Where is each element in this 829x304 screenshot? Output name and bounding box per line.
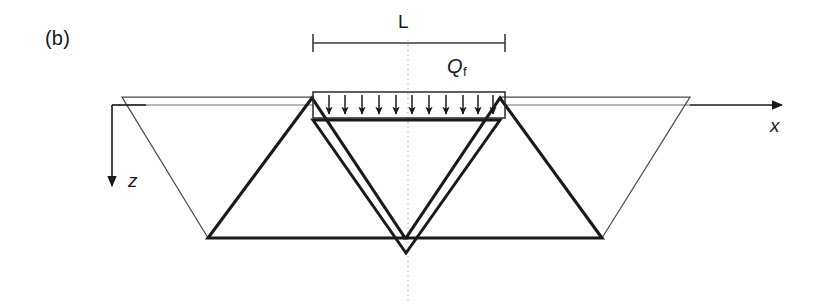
load-arrow-group — [329, 95, 493, 114]
figure-panel-b: (b) L Qf z x — [0, 0, 829, 304]
panel-label: (b) — [45, 28, 70, 48]
block-left-passive-wedge — [122, 97, 312, 238]
block-right-passive-wedge — [500, 97, 690, 238]
footing-load-box — [313, 92, 505, 118]
failure-mechanism-drawing — [0, 0, 829, 304]
dimension-label-L: L — [398, 12, 409, 31]
dimension-line-L — [313, 34, 505, 52]
load-label-subscript: f — [463, 64, 467, 79]
load-label-qf: Qf — [447, 56, 467, 78]
axis-label-z: z — [128, 171, 138, 190]
load-label-symbol: Q — [447, 55, 463, 77]
axis-label-x: x — [770, 116, 780, 135]
